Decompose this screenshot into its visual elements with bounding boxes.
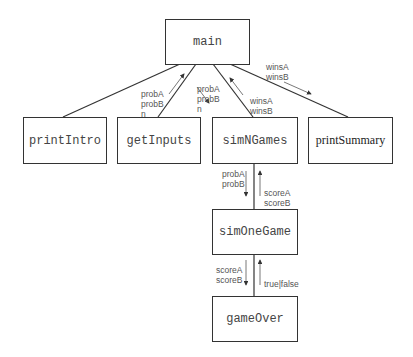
label-getInputs-to-main: probA probB n <box>141 89 164 119</box>
node-label: simOneGame <box>219 225 291 239</box>
node-label: main <box>193 35 222 49</box>
node-simOneGame: simOneGame <box>212 209 298 255</box>
label-main-to-printSummary: winsA winsB <box>266 62 289 82</box>
label-simOneGame-to-gameOver: scoreA scoreB <box>216 265 242 285</box>
node-label: printSummary <box>316 133 385 148</box>
node-label: printIntro <box>29 134 101 148</box>
node-label: simNGames <box>223 134 288 148</box>
node-printSummary: printSummary <box>308 117 393 164</box>
label-simNGames-to-main: winsA winsB <box>250 96 273 116</box>
node-simNGames: simNGames <box>212 117 298 164</box>
label-simNGames-to-simOneGame: probA probB <box>222 169 245 189</box>
node-main: main <box>165 19 250 65</box>
node-getInputs: getInputs <box>117 117 201 164</box>
arrow-main-printSummary <box>284 82 311 94</box>
node-gameOver: gameOver <box>212 296 298 342</box>
node-printIntro: printIntro <box>23 117 107 164</box>
node-label: getInputs <box>127 134 192 148</box>
label-simOneGame-to-simNGames: scoreA scoreB <box>264 188 290 208</box>
node-label: gameOver <box>226 312 284 326</box>
label-gameOver-to-simOneGame: true|false <box>264 279 299 289</box>
label-main-to-simNGames: probA probB n <box>197 84 220 114</box>
arrow-simNGames-main <box>230 78 243 95</box>
